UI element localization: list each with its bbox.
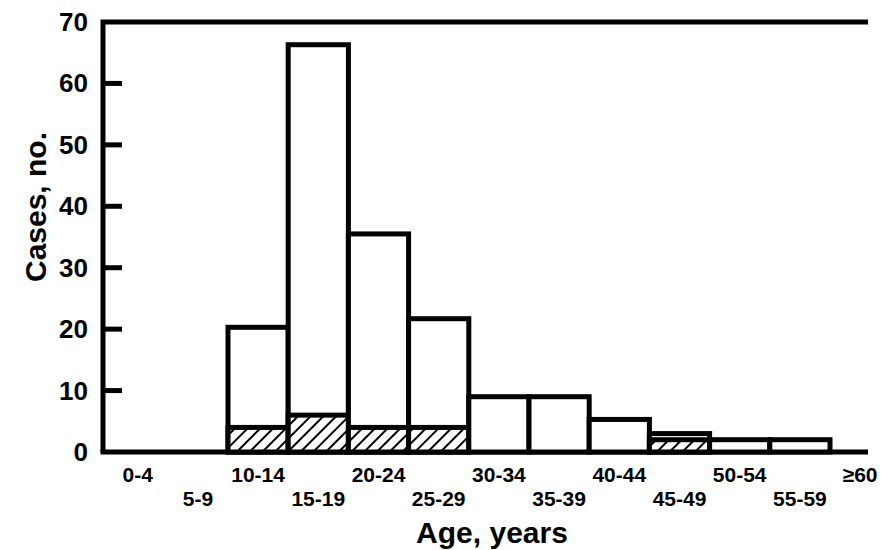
x-tick-label-50-54: 50-54 [695,464,785,485]
y-tick-label-0: 0 [36,439,88,465]
bar-30-34 [469,397,529,452]
x-tick-label-45-49: 45-49 [635,488,725,509]
bar-35-39 [529,397,589,452]
bar-50-54 [710,440,770,452]
bar-45-49 [649,434,709,452]
y-axis-tick-labels: 010203040506070 [30,0,88,548]
bar-10-14 [228,327,288,452]
bar-40-44 [589,419,649,452]
bar-15-19 [288,45,348,452]
x-tick-label-35-39: 35-39 [514,488,604,509]
bar-20-24 [348,234,408,452]
y-tick-label-40: 40 [36,193,88,219]
x-tick-label-20-24: 20-24 [334,464,424,485]
x-tick-label-25-29: 25-29 [394,488,484,509]
x-tick-label-40-44: 40-44 [574,464,664,485]
axis-frame [101,22,869,452]
y-tick-label-20: 20 [36,316,88,342]
y-tick-label-60: 60 [36,70,88,96]
x-tick-label-55-59: 55-59 [755,488,845,509]
y-axis-ticks [103,83,122,390]
bar-55-59 [770,440,830,452]
x-tick-label-15-19: 15-19 [273,488,363,509]
y-tick-label-70: 70 [36,9,88,35]
x-tick-label-ge60: ≥60 [815,464,882,485]
x-tick-label-0-4: 0-4 [93,464,183,485]
x-tick-label-5-9: 5-9 [153,488,243,509]
y-tick-label-10: 10 [36,378,88,404]
bar-25-29 [409,319,469,452]
x-tick-label-30-34: 30-34 [454,464,544,485]
y-tick-label-50: 50 [36,132,88,158]
x-tick-label-10-14: 10-14 [213,464,303,485]
bars-group [228,45,830,452]
y-tick-label-30: 30 [36,255,88,281]
x-axis-title: Age, years [0,516,874,550]
